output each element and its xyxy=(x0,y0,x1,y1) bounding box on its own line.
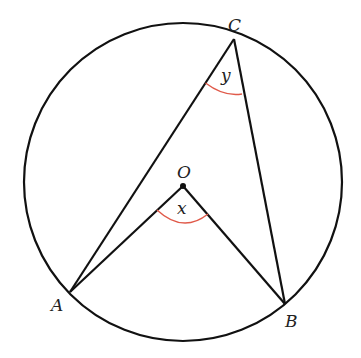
chord-cb xyxy=(234,39,285,304)
radius-oa xyxy=(70,186,183,292)
label-c: C xyxy=(228,15,241,35)
label-o: O xyxy=(177,162,191,182)
chord-ca xyxy=(70,39,234,292)
center-point-o xyxy=(180,183,186,189)
radius-ob xyxy=(183,186,285,304)
label-a: A xyxy=(49,295,63,315)
circle xyxy=(24,23,342,341)
angle-label-x: x xyxy=(177,198,187,218)
circle-theorem-diagram: C O A B y x xyxy=(0,0,361,358)
angle-label-y: y xyxy=(220,65,231,85)
label-b: B xyxy=(284,311,298,331)
